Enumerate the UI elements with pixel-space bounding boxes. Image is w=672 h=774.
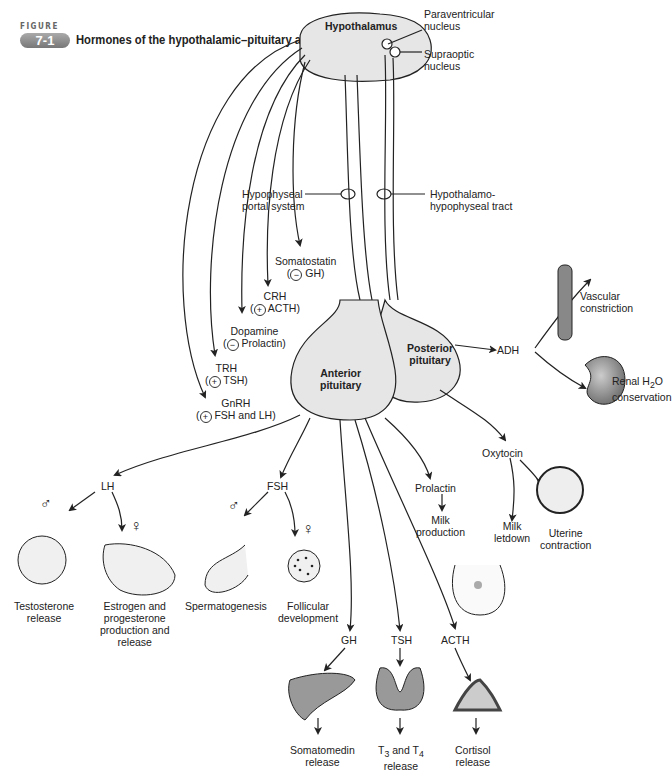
gh-label: GH xyxy=(341,634,357,646)
liver-icon xyxy=(289,673,355,720)
adrenal-icon xyxy=(455,680,500,710)
inhibit-icon: − xyxy=(290,269,302,281)
lh-label: LH xyxy=(101,480,114,492)
thyroid-icon xyxy=(376,668,424,710)
stimulate-icon: + xyxy=(200,411,212,423)
breast-icon xyxy=(452,565,504,615)
testosterone-label: Testosteronerelease xyxy=(14,600,74,624)
adh-label: ADH xyxy=(497,344,519,356)
anterior-pituitary-shape xyxy=(291,300,396,420)
prolactin-label: Prolactin xyxy=(415,482,456,494)
ovary-icon xyxy=(103,544,175,595)
milk-production-label: Milkproduction xyxy=(416,514,465,538)
uterus-fetus-icon xyxy=(537,467,583,513)
dopamine-label: Dopamine(− Prolactin) xyxy=(223,325,286,351)
female-symbol-icon: ♀ xyxy=(130,520,142,532)
somatomedin-label: Somatomedinrelease xyxy=(290,744,355,768)
anterior-pituitary-label: Anteriorpituitary xyxy=(320,367,361,391)
male-symbol-icon: ♂ xyxy=(228,500,240,512)
somatostatin-label: Somatostatin(− GH) xyxy=(275,255,336,281)
fsh-label: FSH xyxy=(267,480,288,492)
crh-label: CRH(+ ACTH) xyxy=(250,290,300,316)
tract-label: Hypothalamo-hypophyseal tract xyxy=(430,188,512,212)
t3-t4-label: T3 and T4release xyxy=(378,744,424,772)
renal-label: Renal H2Oconservation xyxy=(612,375,672,403)
stimulate-icon: + xyxy=(254,304,266,316)
portal-system-label: Hypophysealportal system xyxy=(242,188,304,212)
posterior-pituitary-label: Posteriorpituitary xyxy=(407,342,453,366)
estrogen-label: Estrogen andprogesteroneproduction andre… xyxy=(100,600,169,648)
oxytocin-label: Oxytocin xyxy=(482,447,523,459)
seminiferous-icon xyxy=(205,545,248,592)
hypothalamus-label: Hypothalamus xyxy=(325,20,397,32)
blood-vessel-icon xyxy=(558,265,572,340)
supraoptic-label: Supraopticnucleus xyxy=(424,48,474,72)
follicle-icon xyxy=(288,550,320,582)
trh-label: TRH(+ TSH) xyxy=(205,362,248,388)
gnrh-label: GnRH(+ FSH and LH) xyxy=(196,397,276,423)
acth-label: ACTH xyxy=(441,634,470,646)
inhibit-icon: − xyxy=(227,339,239,351)
paraventricular-label: Paraventricularnucleus xyxy=(424,8,495,32)
female-symbol-icon: ♀ xyxy=(302,523,314,535)
uterine-label: Uterinecontraction xyxy=(540,527,591,551)
spermatogenesis-label: Spermatogenesis xyxy=(185,600,267,612)
testis-icon xyxy=(18,536,66,584)
vascular-label: Vascularconstriction xyxy=(580,290,633,314)
male-symbol-icon: ♂ xyxy=(40,498,52,510)
tsh-label: TSH xyxy=(391,634,412,646)
follicular-label: Folliculardevelopment xyxy=(278,600,338,624)
milk-letdown-label: Milkletdown xyxy=(494,520,530,544)
stimulate-icon: + xyxy=(209,376,221,388)
cortisol-label: Cortisolrelease xyxy=(455,744,491,768)
